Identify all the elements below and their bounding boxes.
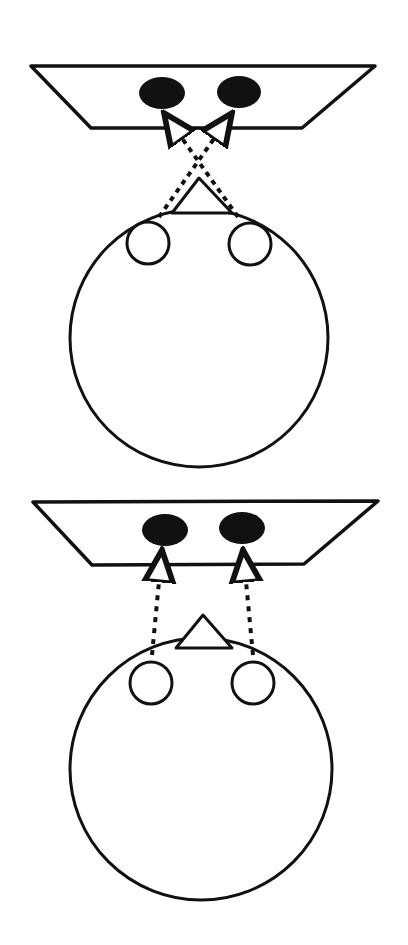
right-image-spot [217, 76, 261, 108]
right-eye [232, 662, 274, 704]
head-outline [70, 638, 332, 900]
left-image-spot [139, 77, 185, 109]
head-outline [70, 209, 328, 467]
left-eye [130, 662, 172, 704]
parallel-view-panel [33, 501, 378, 900]
screen-plane [33, 501, 378, 565]
right-image-spot [219, 512, 265, 544]
left-image-spot [142, 514, 188, 546]
stereo-viewing-diagram [0, 0, 408, 945]
screen-plane [31, 66, 375, 128]
left-eye [127, 222, 169, 264]
right-eye [229, 223, 271, 265]
nose-triangle [176, 615, 232, 648]
crossed-view-panel [31, 66, 375, 467]
